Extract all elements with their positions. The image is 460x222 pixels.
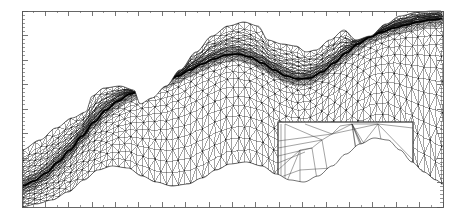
- mesh-vertex: [142, 138, 144, 140]
- mesh-vertex: [381, 56, 383, 58]
- mesh-vertex: [381, 43, 383, 45]
- mesh-vertex: [70, 137, 72, 139]
- mesh-vertex: [190, 81, 192, 83]
- mesh-vertex: [274, 55, 276, 57]
- mesh-vertex: [321, 95, 323, 97]
- mesh-vertex: [154, 121, 156, 123]
- mesh-vertex: [190, 112, 192, 114]
- mesh-vertex: [274, 93, 276, 95]
- mesh-vertex: [358, 54, 360, 56]
- mesh-vertex: [430, 35, 432, 37]
- mesh-vertex: [238, 38, 240, 40]
- mesh-vertex: [23, 197, 25, 199]
- mesh-vertex: [214, 45, 216, 47]
- mesh-vertex: [34, 160, 36, 162]
- mesh-vertex: [238, 137, 240, 139]
- mesh-vertex: [406, 99, 408, 101]
- mesh-vertex: [261, 102, 263, 104]
- mesh-vertex: [47, 152, 49, 154]
- mesh-vertex: [250, 68, 252, 70]
- mesh-vertex: [429, 55, 431, 57]
- mesh-vertex: [106, 131, 108, 133]
- mesh-vertex: [262, 73, 264, 75]
- mesh-vertex: [298, 117, 300, 119]
- mesh-vertex: [58, 181, 60, 183]
- mesh-vertex: [226, 34, 228, 36]
- mesh-vertex: [370, 116, 372, 118]
- mesh-vertex: [202, 106, 204, 108]
- mesh-vertex: [321, 81, 323, 83]
- mesh-vertex: [70, 165, 72, 167]
- mesh-vertex: [70, 172, 72, 174]
- mesh-vertex: [34, 198, 36, 200]
- mesh-vertex: [34, 170, 36, 172]
- mesh-vertex: [201, 51, 203, 53]
- mesh-vertex: [154, 158, 156, 160]
- mesh-vertex: [119, 114, 121, 116]
- mesh-vertex: [83, 160, 85, 162]
- mesh-vertex: [130, 122, 132, 124]
- mesh-vertex: [309, 59, 311, 61]
- mesh-vertex: [297, 102, 299, 104]
- mesh-vertex: [214, 43, 216, 45]
- mesh-vertex: [95, 132, 97, 134]
- mesh-vertex: [345, 109, 347, 111]
- mesh-vertex: [285, 115, 287, 117]
- mesh-vertex: [70, 133, 72, 135]
- mesh-vertex: [202, 128, 204, 130]
- mesh-vertex: [310, 67, 312, 69]
- mesh-vertex: [370, 93, 372, 95]
- mesh-vertex: [225, 43, 227, 45]
- mesh-vertex: [321, 111, 323, 113]
- mesh-vertex: [141, 107, 143, 109]
- frame-mask-right: [444, 0, 460, 222]
- mesh-vertex: [370, 47, 372, 49]
- mesh-vertex: [429, 79, 431, 81]
- mesh-vertex: [106, 153, 108, 155]
- mesh-vertex: [35, 153, 37, 155]
- mesh-vertex: [321, 54, 323, 56]
- mesh-vertex: [226, 66, 228, 68]
- mesh-vertex: [429, 108, 431, 110]
- mesh-vertex: [59, 148, 61, 150]
- mesh-vertex: [369, 76, 371, 78]
- mesh-vertex: [309, 87, 311, 89]
- mesh-vertex: [238, 41, 240, 43]
- mesh-vertex: [345, 37, 347, 39]
- mesh-vertex: [94, 159, 96, 161]
- mesh-vertex: [238, 78, 240, 80]
- mesh-vertex: [154, 106, 156, 108]
- mesh-vertex: [167, 91, 169, 93]
- mesh-vertex: [250, 117, 252, 119]
- mesh-vertex: [58, 175, 60, 177]
- mesh-vertex: [225, 39, 227, 41]
- mesh-vertex: [46, 183, 48, 185]
- mesh-vertex: [70, 181, 72, 183]
- mesh-vertex: [370, 59, 372, 61]
- mesh-vertex: [213, 70, 215, 72]
- mesh-vertex: [237, 31, 239, 33]
- mesh-vertex: [95, 108, 97, 110]
- mesh-vertex: [250, 34, 252, 36]
- mesh-vertex: [238, 96, 240, 98]
- mesh-vertex: [417, 104, 419, 106]
- mesh-vertex: [178, 86, 180, 88]
- mesh-vertex: [322, 61, 324, 63]
- mesh-plot-svg: [0, 0, 460, 222]
- mesh-vertex: [286, 53, 288, 55]
- mesh-vertex: [47, 157, 49, 159]
- mesh-vertex: [154, 139, 156, 141]
- mesh-vertex: [298, 66, 300, 68]
- mesh-vertex: [345, 42, 347, 44]
- mesh-vertex: [417, 54, 419, 56]
- mesh-vertex: [273, 149, 275, 151]
- mesh-vertex: [286, 63, 288, 65]
- mesh-vertex: [297, 56, 299, 58]
- mesh-vertex: [83, 119, 85, 121]
- mesh-vertex: [71, 127, 73, 129]
- mesh-vertex: [357, 82, 359, 84]
- mesh-vertex: [34, 165, 36, 167]
- mesh-vertex: [95, 103, 97, 105]
- mesh-vertex: [333, 120, 335, 122]
- mesh-vertex: [441, 183, 443, 185]
